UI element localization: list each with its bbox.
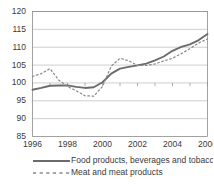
y-tick-label-90: 90 bbox=[8, 114, 26, 123]
legend-item-food-products: Food products, beverages and tobacco bbox=[0, 155, 213, 167]
y-tick-label-95: 95 bbox=[8, 96, 26, 105]
y-tick-label-115: 115 bbox=[8, 25, 26, 34]
line-chart: 859095100105110115120 199619982000200220… bbox=[0, 0, 213, 184]
x-tick-label-1996: 1996 bbox=[20, 140, 46, 149]
x-tick-label-1998: 1998 bbox=[55, 140, 81, 149]
x-tick-label-2000: 2000 bbox=[90, 140, 116, 149]
y-tick-label-100: 100 bbox=[8, 78, 26, 87]
y-tick-label-110: 110 bbox=[8, 43, 26, 52]
series-line-food-products bbox=[33, 34, 208, 90]
x-tick-label-2006: 2006 bbox=[195, 140, 214, 149]
x-tick-label-2002: 2002 bbox=[125, 140, 151, 149]
legend-label-food-products: Food products, beverages and tobacco bbox=[71, 156, 213, 165]
x-tick-label-2004: 2004 bbox=[160, 140, 186, 149]
plot-frame bbox=[33, 12, 208, 137]
y-tick-label-105: 105 bbox=[8, 61, 26, 70]
legend-item-meat-products: Meat and meat products bbox=[0, 167, 213, 179]
legend-label-meat-products: Meat and meat products bbox=[71, 168, 163, 177]
y-tick-label-120: 120 bbox=[8, 7, 26, 16]
